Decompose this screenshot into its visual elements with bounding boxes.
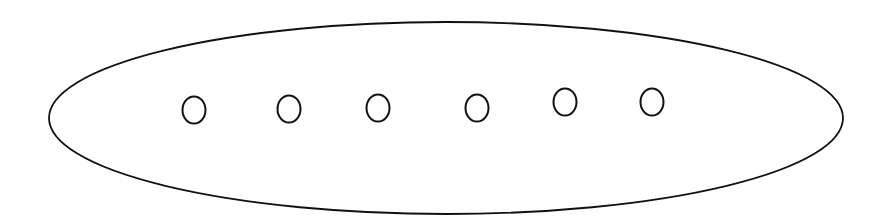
element-circle-2 bbox=[278, 96, 301, 123]
elements-group bbox=[183, 89, 664, 124]
element-circle-3 bbox=[367, 95, 390, 122]
element-circle-4 bbox=[466, 95, 489, 122]
element-circle-5 bbox=[554, 89, 577, 116]
element-circle-1 bbox=[183, 97, 206, 124]
container-ellipse bbox=[49, 22, 843, 214]
element-circle-6 bbox=[641, 89, 664, 116]
set-diagram bbox=[0, 0, 887, 219]
